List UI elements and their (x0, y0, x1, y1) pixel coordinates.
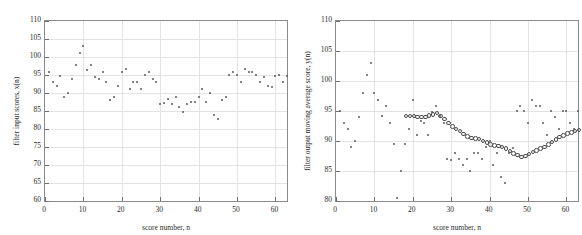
y-axis-tick-label: 80 (21, 124, 41, 132)
data-point-input-score (248, 71, 250, 73)
x-axis-tick (413, 197, 414, 201)
gridline-vertical (451, 21, 452, 201)
data-point-input-score (125, 68, 127, 70)
x-axis-tick (160, 197, 161, 201)
y-axis-tick (45, 201, 49, 202)
y-axis-tick (45, 111, 49, 112)
panel-filter-output: score number, n filter output moving ave… (291, 0, 582, 235)
x-axis-tick (199, 197, 200, 201)
data-point-input-score (569, 122, 571, 124)
data-point-input-score (113, 96, 115, 98)
data-point-input-score (167, 98, 169, 100)
gridline-horizontal (45, 93, 287, 94)
data-point-input-score (63, 96, 65, 98)
data-point-input-score (339, 110, 341, 112)
y-axis-tick-label: 90 (21, 88, 41, 96)
data-point-input-score (190, 101, 192, 103)
x-axis-tick (566, 197, 567, 201)
data-point-input-score (366, 74, 368, 76)
data-point-moving-average (577, 128, 582, 133)
gridline-vertical (490, 21, 491, 201)
data-point-input-score (171, 103, 173, 105)
y-axis-tick-label: 75 (21, 142, 41, 150)
data-point-input-score (347, 128, 349, 130)
data-point-input-score (286, 75, 288, 77)
x-axis-tick (45, 197, 46, 201)
x-axis-tick-label: 50 (224, 206, 248, 214)
y-axis-tick (45, 57, 49, 58)
y-axis-tick-label: 95 (21, 70, 41, 78)
data-point-input-score (577, 110, 579, 112)
data-point-input-score (554, 116, 556, 118)
data-point-input-score (186, 103, 188, 105)
x-axis-tick-label: 20 (109, 206, 133, 214)
y-axis-tick-label: 85 (312, 166, 332, 174)
gridline-vertical (374, 21, 375, 201)
data-point-input-score (542, 122, 544, 124)
data-point-input-score (282, 81, 284, 83)
data-point-input-score (362, 92, 364, 94)
data-point-input-score (562, 110, 564, 112)
x-axis-tick (83, 197, 84, 201)
data-point-input-score (423, 122, 425, 124)
x-axis-tick (451, 197, 452, 201)
gridline-horizontal (336, 111, 578, 112)
data-point-input-score (163, 102, 165, 104)
gridline-horizontal (336, 141, 578, 142)
data-point-input-score (500, 176, 502, 178)
x-axis-tick-label: 0 (323, 206, 347, 214)
data-point-input-score (86, 69, 88, 71)
y-axis-tick-label: 85 (21, 106, 41, 114)
x-axis-tick-label: 20 (400, 206, 424, 214)
data-point-input-score (271, 86, 273, 88)
gridline-vertical (528, 21, 529, 201)
two-panel-scatter-figure: score number, n filter input scores, x(n… (0, 0, 582, 235)
x-axis-tick (275, 197, 276, 201)
data-point-input-score (370, 62, 372, 64)
gridline-horizontal (45, 57, 287, 58)
data-point-input-score (350, 146, 352, 148)
data-point-input-score (416, 134, 418, 136)
gridline-vertical (237, 21, 238, 201)
data-point-input-score (492, 164, 494, 166)
gridline-horizontal (336, 81, 578, 82)
x-axis-tick (336, 197, 337, 201)
data-point-input-score (201, 88, 203, 90)
x-axis-tick-label: 30 (147, 206, 171, 214)
data-point-input-score (496, 152, 498, 154)
data-point-input-score (148, 71, 150, 73)
data-point-input-score (420, 120, 422, 122)
gridline-vertical (199, 21, 200, 201)
data-point-input-score (79, 52, 81, 54)
data-point-input-score (102, 71, 104, 73)
y-axis-tick-label: 110 (312, 16, 332, 24)
data-point-input-score (240, 81, 242, 83)
data-point-input-score (48, 71, 50, 73)
gridline-horizontal (45, 129, 287, 130)
gridline-horizontal (45, 75, 287, 76)
data-point-input-score (259, 81, 261, 83)
y-axis-tick (45, 165, 49, 166)
data-point-input-score (155, 81, 157, 83)
data-point-input-score (109, 99, 111, 101)
y-axis-tick (336, 201, 340, 202)
data-point-input-score (454, 152, 456, 154)
x-axis-tick-label: 10 (70, 206, 94, 214)
data-point-input-score (140, 88, 142, 90)
data-point-input-score (435, 105, 437, 107)
data-point-input-score (481, 158, 483, 160)
data-point-input-score (473, 152, 475, 154)
gridline-horizontal (45, 165, 287, 166)
x-axis-tick (374, 197, 375, 201)
x-axis-tick (237, 197, 238, 201)
data-point-input-score (443, 122, 445, 124)
data-point-input-score (446, 158, 448, 160)
data-point-input-score (558, 128, 560, 130)
y-axis-tick-label: 100 (312, 76, 332, 84)
gridline-horizontal (336, 51, 578, 52)
data-point-input-score (385, 105, 387, 107)
data-point-input-score (477, 152, 479, 154)
data-point-input-score (458, 158, 460, 160)
gridline-vertical (160, 21, 161, 201)
data-point-input-score (381, 115, 383, 117)
